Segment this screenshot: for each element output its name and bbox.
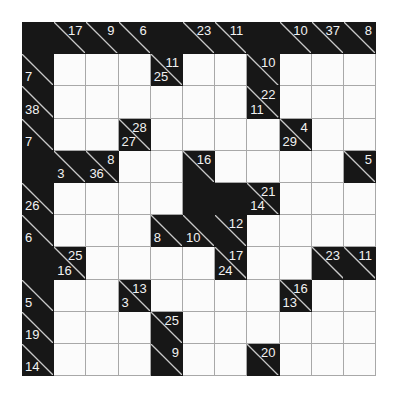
- entry-cell[interactable]: [247, 312, 279, 344]
- entry-cell[interactable]: [215, 312, 247, 344]
- down-clue: 36: [89, 167, 103, 180]
- clue-cell: 23: [183, 22, 215, 54]
- entry-cell[interactable]: [119, 86, 151, 118]
- entry-cell[interactable]: [280, 151, 312, 183]
- entry-cell[interactable]: [151, 151, 183, 183]
- entry-cell[interactable]: [119, 247, 151, 279]
- entry-cell[interactable]: [280, 183, 312, 215]
- entry-cell[interactable]: [151, 280, 183, 312]
- entry-cell[interactable]: [280, 215, 312, 247]
- entry-cell[interactable]: [54, 183, 86, 215]
- entry-cell[interactable]: [312, 54, 344, 86]
- entry-cell[interactable]: [86, 312, 118, 344]
- entry-cell[interactable]: [54, 312, 86, 344]
- entry-cell[interactable]: [312, 215, 344, 247]
- clue-cell: 8: [151, 215, 183, 247]
- entry-cell[interactable]: [344, 312, 376, 344]
- entry-cell[interactable]: [86, 54, 118, 86]
- entry-cell[interactable]: [344, 280, 376, 312]
- across-clue: 11: [230, 24, 244, 37]
- entry-cell[interactable]: [344, 344, 376, 376]
- clue-cell: 10: [183, 215, 215, 247]
- entry-cell[interactable]: [86, 280, 118, 312]
- entry-cell[interactable]: [119, 312, 151, 344]
- entry-cell[interactable]: [86, 119, 118, 151]
- across-clue: 10: [293, 24, 307, 37]
- entry-cell[interactable]: [344, 215, 376, 247]
- entry-cell[interactable]: [183, 344, 215, 376]
- across-clue: 22: [261, 88, 275, 101]
- entry-cell[interactable]: [344, 54, 376, 86]
- across-clue: 16: [293, 282, 307, 295]
- entry-cell[interactable]: [312, 344, 344, 376]
- kakuro-puzzle: 1796231110378711251038221172827429383616…: [0, 0, 399, 402]
- entry-cell[interactable]: [151, 119, 183, 151]
- entry-cell[interactable]: [151, 86, 183, 118]
- entry-cell[interactable]: [86, 215, 118, 247]
- entry-cell[interactable]: [280, 247, 312, 279]
- across-clue: 23: [325, 249, 339, 262]
- entry-cell[interactable]: [183, 280, 215, 312]
- entry-cell[interactable]: [312, 183, 344, 215]
- across-clue: 13: [132, 282, 146, 295]
- entry-cell[interactable]: [215, 280, 247, 312]
- entry-cell[interactable]: [86, 344, 118, 376]
- kakuro-grid[interactable]: 1796231110378711251038221172827429383616…: [22, 22, 376, 376]
- clue-cell: 20: [247, 344, 279, 376]
- entry-cell[interactable]: [183, 312, 215, 344]
- entry-cell[interactable]: [119, 344, 151, 376]
- entry-cell[interactable]: [86, 183, 118, 215]
- entry-cell[interactable]: [151, 183, 183, 215]
- across-clue: 6: [140, 24, 147, 37]
- block-cell: [22, 247, 54, 279]
- entry-cell[interactable]: [312, 86, 344, 118]
- entry-cell[interactable]: [119, 54, 151, 86]
- entry-cell[interactable]: [119, 151, 151, 183]
- entry-cell[interactable]: [280, 312, 312, 344]
- entry-cell[interactable]: [312, 119, 344, 151]
- clue-cell: 5: [22, 280, 54, 312]
- entry-cell[interactable]: [54, 344, 86, 376]
- entry-cell[interactable]: [247, 151, 279, 183]
- entry-cell[interactable]: [183, 54, 215, 86]
- entry-cell[interactable]: [280, 86, 312, 118]
- clue-cell: 16: [183, 151, 215, 183]
- entry-cell[interactable]: [54, 280, 86, 312]
- entry-cell[interactable]: [247, 119, 279, 151]
- block-cell: [247, 22, 279, 54]
- entry-cell[interactable]: [215, 119, 247, 151]
- entry-cell[interactable]: [312, 280, 344, 312]
- clue-cell: 1724: [215, 247, 247, 279]
- down-clue: 3: [57, 167, 64, 180]
- across-clue: 20: [261, 346, 275, 359]
- entry-cell[interactable]: [54, 119, 86, 151]
- entry-cell[interactable]: [54, 215, 86, 247]
- clue-cell: 38: [22, 86, 54, 118]
- entry-cell[interactable]: [54, 86, 86, 118]
- entry-cell[interactable]: [247, 280, 279, 312]
- entry-cell[interactable]: [280, 344, 312, 376]
- entry-cell[interactable]: [215, 86, 247, 118]
- entry-cell[interactable]: [280, 54, 312, 86]
- entry-cell[interactable]: [86, 247, 118, 279]
- entry-cell[interactable]: [183, 247, 215, 279]
- entry-cell[interactable]: [151, 247, 183, 279]
- entry-cell[interactable]: [215, 151, 247, 183]
- down-clue: 8: [154, 231, 161, 244]
- entry-cell[interactable]: [54, 54, 86, 86]
- entry-cell[interactable]: [119, 215, 151, 247]
- entry-cell[interactable]: [183, 119, 215, 151]
- entry-cell[interactable]: [344, 86, 376, 118]
- entry-cell[interactable]: [86, 86, 118, 118]
- entry-cell[interactable]: [344, 183, 376, 215]
- entry-cell[interactable]: [312, 151, 344, 183]
- down-clue: 7: [25, 135, 32, 148]
- entry-cell[interactable]: [312, 312, 344, 344]
- entry-cell[interactable]: [247, 247, 279, 279]
- entry-cell[interactable]: [247, 215, 279, 247]
- entry-cell[interactable]: [119, 183, 151, 215]
- entry-cell[interactable]: [215, 54, 247, 86]
- entry-cell[interactable]: [215, 344, 247, 376]
- entry-cell[interactable]: [344, 119, 376, 151]
- entry-cell[interactable]: [183, 86, 215, 118]
